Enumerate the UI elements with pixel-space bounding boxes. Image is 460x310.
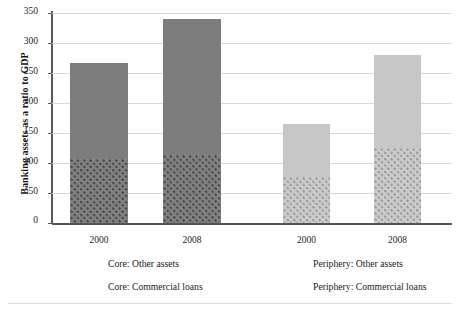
bar-segment-core-2008-other-assets[interactable]: [163, 19, 221, 155]
x-tick-label-periphery-2000: 2000: [283, 235, 330, 245]
x-tick-label-periphery-2008: 2008: [374, 235, 421, 245]
bar-segment-core-2000-other-assets[interactable]: [70, 63, 128, 159]
y-axis-title: Banking assets as a ratio to GDP: [19, 14, 30, 234]
x-tick-label-core-2008: 2008: [163, 235, 221, 245]
bar-core-2008[interactable]: [163, 19, 221, 223]
bar-segment-periphery-2000-commercial-loans[interactable]: [283, 177, 330, 223]
legend-swatch-periphery-commercial-loans: [273, 281, 302, 292]
tick-mark-0: [48, 223, 52, 224]
bottom-divider: [8, 303, 452, 304]
tick-mark-200: [48, 103, 52, 104]
bar-periphery-2008[interactable]: [374, 55, 421, 223]
bar-core-2000[interactable]: [70, 63, 128, 223]
legend-swatch-periphery-other-assets: [273, 258, 302, 269]
tick-mark-350: [48, 13, 52, 14]
gridline-300: 300: [52, 43, 452, 44]
tick-mark-250: [48, 73, 52, 74]
legend-swatch-core-commercial-loans: [68, 281, 97, 292]
bar-segment-periphery-2000-other-assets[interactable]: [283, 124, 330, 177]
legend-label-core-commercial-loans: Core: Commercial loans: [108, 281, 203, 292]
x-tick-label-core-2000: 2000: [70, 235, 128, 245]
chart-legend: Core: Other assets Periphery: Other asse…: [0, 256, 460, 300]
bar-segment-periphery-2008-commercial-loans[interactable]: [374, 148, 421, 223]
legend-item-periphery-commercial-loans[interactable]: Periphery: Commercial loans: [273, 281, 427, 292]
legend-label-periphery-other-assets: Periphery: Other assets: [313, 258, 403, 269]
tick-mark-100: [48, 163, 52, 164]
bar-periphery-2000[interactable]: [283, 124, 330, 223]
bar-segment-core-2000-commercial-loans[interactable]: [70, 159, 128, 223]
plot-area: 350 300 250 200 150 100 50 0: [52, 13, 452, 223]
stacked-bar-chart-figure: 350 300 250 200 150 100 50 0: [0, 0, 460, 310]
gridline-baseline-0: 0: [52, 223, 452, 225]
legend-item-core-commercial-loans[interactable]: Core: Commercial loans: [68, 281, 203, 292]
legend-swatch-core-other-assets: [68, 258, 97, 269]
legend-label-core-other-assets: Core: Other assets: [108, 258, 179, 269]
gridline-350: 350: [52, 13, 452, 14]
legend-item-periphery-other-assets[interactable]: Periphery: Other assets: [273, 258, 403, 269]
bar-segment-periphery-2008-other-assets[interactable]: [374, 55, 421, 148]
tick-mark-150: [48, 133, 52, 134]
tick-mark-300: [48, 43, 52, 44]
tick-mark-50: [48, 193, 52, 194]
bar-segment-core-2008-commercial-loans[interactable]: [163, 155, 221, 223]
legend-item-core-other-assets[interactable]: Core: Other assets: [68, 258, 179, 269]
legend-label-periphery-commercial-loans: Periphery: Commercial loans: [313, 281, 427, 292]
